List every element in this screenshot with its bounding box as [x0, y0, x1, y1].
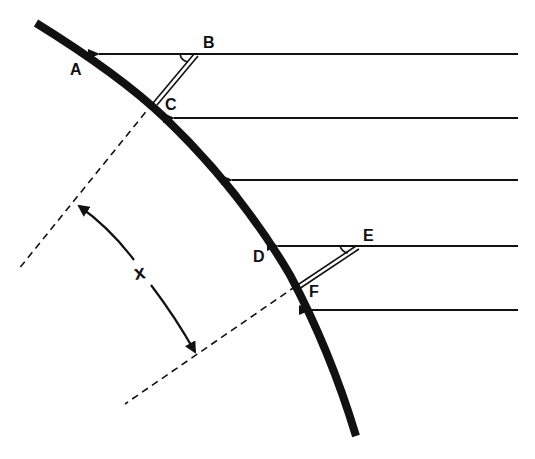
radius-through-f	[125, 286, 296, 404]
curved-surface	[36, 23, 356, 436]
label-x: x	[132, 260, 147, 284]
diagram-canvas: x A B C D E F	[0, 0, 535, 459]
diagram-svg: x A B C D E F	[0, 0, 535, 459]
angle-mark-b	[180, 54, 188, 62]
gnomon-ef	[296, 246, 359, 289]
label-c: C	[165, 96, 177, 113]
label-b: B	[203, 34, 215, 51]
label-a: A	[70, 61, 82, 78]
label-f: F	[309, 283, 319, 300]
radius-through-c	[18, 103, 153, 270]
label-e: E	[363, 227, 374, 244]
label-d: D	[253, 248, 265, 265]
